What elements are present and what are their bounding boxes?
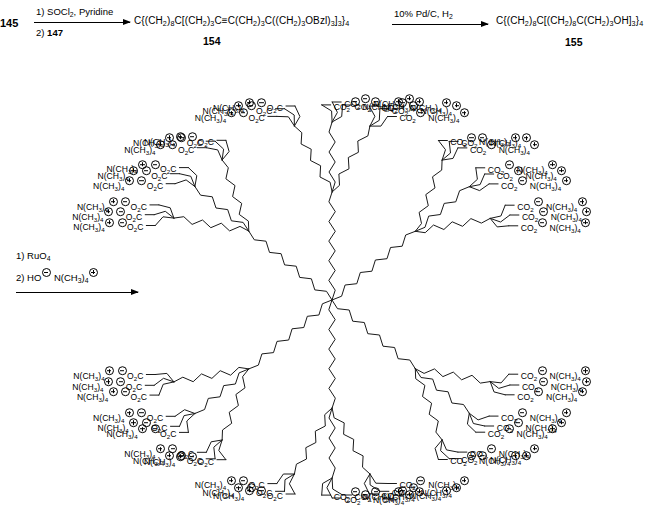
carboxylate-minus-charge-icon xyxy=(188,133,197,142)
ammonium-plus-charge-icon xyxy=(156,445,165,454)
tetramethylammonium-label: N(CH3)4 xyxy=(73,372,114,382)
tetramethylammonium-label: N(CH3)4 xyxy=(77,392,118,402)
carboxylate-minus-charge-icon xyxy=(539,377,548,386)
ammonium-plus-charge-icon xyxy=(530,140,539,149)
carboxylate-minus-charge-icon xyxy=(137,409,146,418)
carboxylate-label: O2C xyxy=(188,137,214,147)
carboxylate-minus-charge-icon xyxy=(117,367,126,376)
carboxylate-minus-charge-icon xyxy=(514,166,523,175)
carboxylate-label: O2C xyxy=(137,181,163,191)
carboxylate-label: O2C xyxy=(116,382,142,392)
carboxylate-label: CO2 xyxy=(399,114,425,124)
ammonium-plus-charge-icon xyxy=(452,483,461,492)
carboxylate-minus-charge-icon xyxy=(257,98,266,107)
carboxylate-minus-charge-icon xyxy=(467,452,476,461)
tetramethylammonium-label: N(CH3)4 xyxy=(93,413,134,423)
carboxylate-minus-charge-icon xyxy=(239,476,248,485)
carboxylate-label: O2C xyxy=(116,212,142,222)
carboxylate-label: CO2 xyxy=(501,181,527,191)
ammonium-plus-charge-icon xyxy=(582,377,591,386)
tetramethylammonium-label: N(CH3)4 xyxy=(195,481,236,491)
terminal-group: N(CH3)4 O2C xyxy=(73,367,143,383)
tetramethylammonium-label: N(CH3)4 xyxy=(530,181,571,191)
carboxylate-label: CO2 xyxy=(355,102,381,112)
carboxylate-minus-charge-icon xyxy=(518,176,527,185)
terminal-group: CO2 N(CH3)4 xyxy=(334,487,404,503)
carboxylate-minus-charge-icon xyxy=(538,218,547,227)
carboxylate-label: O2C xyxy=(137,413,163,423)
ammonium-plus-charge-icon xyxy=(581,366,590,375)
carboxylate-label: CO2 xyxy=(334,492,360,502)
ammonium-plus-charge-icon xyxy=(562,408,571,417)
carboxylate-minus-charge-icon xyxy=(487,140,496,149)
carboxylate-label: O2C xyxy=(121,392,147,402)
terminal-group: CO2 N(CH3)4 xyxy=(501,176,571,192)
terminal-group: CO2 N(CH3)4 xyxy=(488,424,558,440)
carboxylate-minus-charge-icon xyxy=(534,387,543,396)
dendrimer-structure xyxy=(0,0,664,519)
ammonium-plus-charge-icon xyxy=(548,424,557,433)
ammonium-plus-charge-icon xyxy=(578,387,587,396)
ammonium-plus-charge-icon xyxy=(138,160,147,169)
ammonium-plus-charge-icon xyxy=(562,176,571,185)
tetramethylammonium-label: N(CH3)4 xyxy=(550,223,591,233)
terminal-group: N(CH3)4 O2C xyxy=(106,160,176,176)
carboxylate-minus-charge-icon xyxy=(518,408,527,417)
carboxylate-label: CO2 xyxy=(470,145,496,155)
ammonium-plus-charge-icon xyxy=(415,487,424,496)
terminal-group: CO2 N(CH3)4 xyxy=(450,452,520,468)
ammonium-plus-charge-icon xyxy=(511,452,520,461)
carboxylate-label: O2C xyxy=(238,481,264,491)
ammonium-plus-charge-icon xyxy=(522,451,531,460)
carboxylate-minus-charge-icon xyxy=(151,160,160,169)
terminal-group: CO2 N(CH3)4 xyxy=(521,218,591,234)
tetramethylammonium-label: N(CH3)4 xyxy=(97,423,138,433)
carboxylate-minus-charge-icon xyxy=(371,97,380,106)
carboxylate-label: O2C xyxy=(117,372,143,382)
ammonium-plus-charge-icon xyxy=(176,133,185,142)
ammonium-plus-charge-icon xyxy=(582,207,591,216)
tetramethylammonium-label: N(CH3)4 xyxy=(546,392,587,402)
ammonium-plus-charge-icon xyxy=(109,197,118,206)
carboxylate-minus-charge-icon xyxy=(538,366,547,375)
carboxylate-label: CO2 xyxy=(450,457,476,467)
tetramethylammonium-label: N(CH3)4 xyxy=(73,223,114,233)
ammonium-plus-charge-icon xyxy=(581,218,590,227)
reaction-scheme: 145 1) SOCl2, Pyridine 2) 147 C{(CH2)8C[… xyxy=(0,0,664,519)
carboxylate-label: O2C xyxy=(150,165,176,175)
terminal-group: CO2 N(CH3)4 xyxy=(470,140,540,156)
tetramethylammonium-label: N(CH3)4 xyxy=(499,145,540,155)
ammonium-plus-charge-icon xyxy=(245,98,254,107)
tetramethylammonium-label: N(CH3)4 xyxy=(383,102,424,112)
ammonium-plus-charge-icon xyxy=(442,486,451,495)
ammonium-plus-charge-icon xyxy=(125,409,134,418)
tetramethylammonium-label: N(CH3)4 xyxy=(213,103,254,113)
tetramethylammonium-label: N(CH3)4 xyxy=(144,137,185,147)
terminal-group: N(CH3)4 O2C xyxy=(213,98,283,114)
carboxylate-minus-charge-icon xyxy=(534,197,543,206)
tetramethylammonium-label: N(CH3)4 xyxy=(362,492,403,502)
tetramethylammonium-label: N(CH3)4 xyxy=(72,382,113,392)
tetramethylammonium-label: N(CH3)4 xyxy=(106,165,147,175)
carboxylate-minus-charge-icon xyxy=(351,487,360,496)
carboxylate-label: O2C xyxy=(257,103,283,113)
tetramethylammonium-label: N(CH3)4 xyxy=(72,212,113,222)
ammonium-plus-charge-icon xyxy=(578,197,587,206)
ammonium-plus-charge-icon xyxy=(557,166,566,175)
tetramethylammonium-label: N(CH3)4 xyxy=(479,457,520,467)
carboxylate-minus-charge-icon xyxy=(168,445,177,454)
carboxylate-minus-charge-icon xyxy=(121,197,130,206)
ammonium-plus-charge-icon xyxy=(227,476,236,485)
carboxylate-label: CO2 xyxy=(521,223,547,233)
terminal-group: N(CH3)4 O2C xyxy=(144,133,214,149)
ammonium-plus-charge-icon xyxy=(415,97,424,106)
carboxylate-minus-charge-icon xyxy=(539,207,548,216)
terminal-group: N(CH3)4 O2C xyxy=(195,476,265,492)
tetramethylammonium-label: N(CH3)4 xyxy=(77,202,118,212)
ammonium-plus-charge-icon xyxy=(530,444,539,453)
terminal-group: CO2 N(CH3)4 xyxy=(355,97,425,113)
terminal-group: N(CH3)4 O2C xyxy=(77,197,147,213)
ammonium-plus-charge-icon xyxy=(460,109,469,118)
carboxylate-label: CO2 xyxy=(517,392,543,402)
ammonium-plus-charge-icon xyxy=(405,490,414,499)
